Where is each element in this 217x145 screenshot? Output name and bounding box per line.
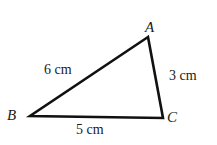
side-label-ac: 3 cm bbox=[169, 69, 197, 83]
side-label-ab: 6 cm bbox=[44, 63, 72, 77]
vertex-label-b: B bbox=[7, 108, 16, 123]
triangle-diagram: A B C 6 cm 3 cm 5 cm bbox=[0, 0, 217, 145]
vertex-label-a: A bbox=[145, 20, 154, 35]
side-label-bc: 5 cm bbox=[76, 123, 104, 137]
vertex-label-c: C bbox=[167, 110, 177, 125]
